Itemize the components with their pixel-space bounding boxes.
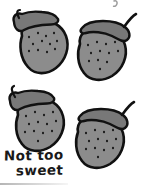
sketch-canvas: Not too sweet	[0, 0, 144, 189]
strawberry-sketch-illustration	[0, 0, 144, 189]
